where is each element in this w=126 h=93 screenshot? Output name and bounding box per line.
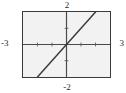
plot-frame — [22, 11, 111, 78]
x-axis-max-label: 3 — [120, 39, 125, 48]
x-axis-min-label: -3 — [1, 39, 9, 48]
plot-canvas — [23, 12, 110, 77]
coordinate-plane-graph: 2 -3 3 -2 — [0, 0, 126, 93]
y-axis-max-label: 2 — [0, 1, 126, 10]
y-axis-min-label: -2 — [0, 83, 126, 92]
